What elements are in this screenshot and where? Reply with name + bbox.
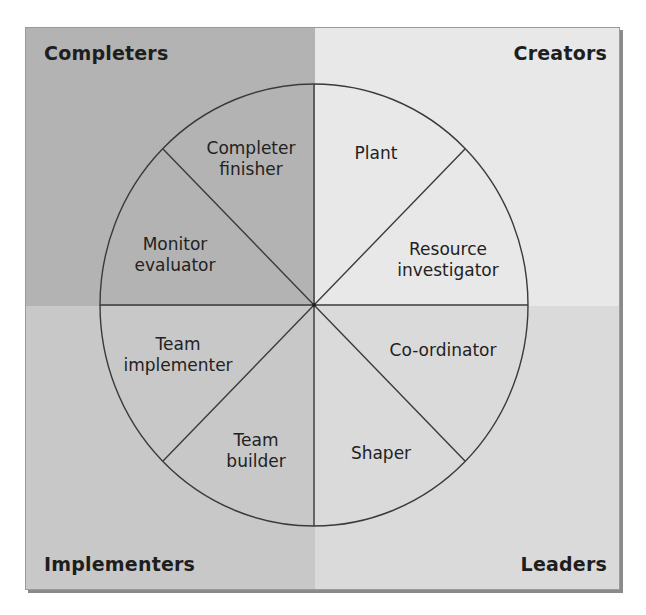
role-label-line1: Completer (207, 138, 296, 159)
role-label-line1: Team (123, 334, 232, 355)
role-label-line1: Monitor (135, 234, 216, 255)
role-label-line1: Shaper (351, 443, 411, 464)
role-label-line2: investigator (397, 260, 499, 281)
role-label-line2: finisher (207, 159, 296, 180)
role-resource-investigator: Resource investigator (397, 239, 499, 281)
role-label-line1: Resource (397, 239, 499, 260)
role-label-line1: Team (226, 430, 285, 451)
role-completer-finisher: Completer finisher (207, 138, 296, 180)
wheel-center (312, 303, 316, 307)
role-wheel (0, 0, 646, 615)
role-label-line2: implementer (123, 355, 232, 376)
role-shaper: Shaper (351, 443, 411, 464)
role-label-line2: builder (226, 451, 285, 472)
role-co-ordinator: Co-ordinator (390, 340, 497, 361)
role-label-line1: Plant (355, 143, 398, 164)
role-plant: Plant (355, 143, 398, 164)
role-label-line2: evaluator (135, 255, 216, 276)
role-monitor-evaluator: Monitor evaluator (135, 234, 216, 276)
role-team-implementer: Team implementer (123, 334, 232, 376)
role-label-line1: Co-ordinator (390, 340, 497, 361)
role-team-builder: Team builder (226, 430, 285, 472)
